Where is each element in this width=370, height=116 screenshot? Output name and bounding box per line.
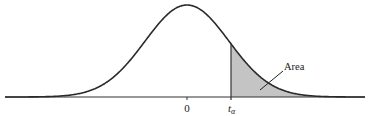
t-distribution-figure: 0 tα Area	[0, 0, 370, 116]
tick-label-t-alpha: tα	[228, 102, 236, 116]
density-curve	[5, 5, 365, 97]
tick-label-zero: 0	[184, 102, 190, 114]
area-annotation: Area	[284, 61, 305, 72]
